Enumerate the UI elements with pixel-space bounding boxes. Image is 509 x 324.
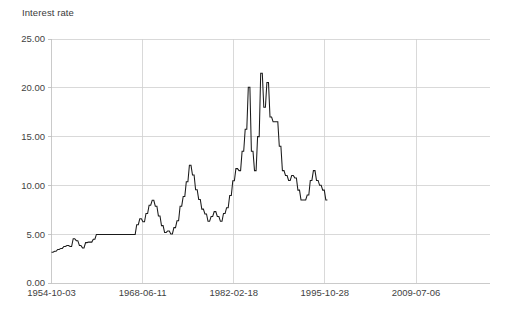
y-tick-label: 15.00 — [21, 131, 45, 142]
y-tick-label: 10.00 — [21, 180, 45, 191]
x-tick-label: 1995-10-28 — [301, 287, 350, 298]
tick-marks — [48, 39, 52, 283]
vertical-gridlines — [52, 39, 417, 283]
x-tick-label: 1968-06-11 — [119, 287, 167, 298]
x-tick-label: 2009-07-06 — [392, 287, 441, 298]
series-line-interest-rate — [52, 73, 328, 252]
x-tick-label: 1982-02-18 — [209, 287, 258, 298]
y-tick-label: 20.00 — [21, 82, 45, 93]
y-axis-labels: 25.0020.0015.0010.005.000.00 — [21, 33, 45, 288]
data-series-group — [52, 73, 328, 252]
horizontal-gridlines — [52, 39, 491, 283]
interest-rate-chart: Interest rate 25.0020.0015.0010.005.000.… — [0, 0, 509, 324]
y-tick-label: 25.00 — [21, 33, 45, 44]
x-tick-label: 1954-10-03 — [27, 287, 76, 298]
plot-area: 25.0020.0015.0010.005.000.00 1954-10-031… — [0, 0, 509, 324]
x-axis-labels: 1954-10-031968-06-111982-02-181995-10-28… — [27, 287, 440, 298]
y-tick-label: 5.00 — [27, 229, 46, 240]
